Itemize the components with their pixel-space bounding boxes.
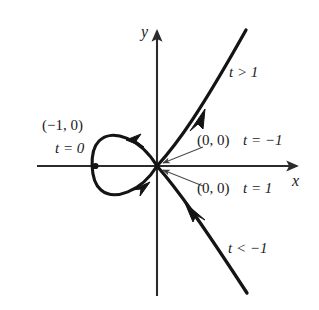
lower-branch-direction-arrow [185, 203, 205, 222]
loop-upper-direction-arrow [126, 134, 144, 147]
y-axis-label: y [141, 24, 148, 40]
plot-canvas [0, 0, 319, 310]
origin-point-lower-label: (0, 0) [197, 181, 230, 196]
lower-branch-range-label: t < −1 [228, 241, 267, 256]
loop-leftmost-point-marker [92, 163, 98, 169]
origin-parameter-lower-label: t = 1 [243, 181, 272, 196]
parametric-curve-figure: y x (−1, 0) t = 0 (0, 0) t = −1 (0, 0) t… [0, 0, 319, 310]
loop-point-label: (−1, 0) [42, 118, 83, 133]
origin-point-upper-label: (0, 0) [197, 133, 230, 148]
loop-parameter-label: t = 0 [55, 141, 84, 156]
x-axis-label: x [292, 173, 299, 189]
origin-parameter-upper-label: t = −1 [243, 133, 282, 148]
upper-branch-range-label: t > 1 [229, 65, 258, 80]
